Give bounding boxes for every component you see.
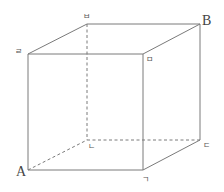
vertex-label-front-bottom-right: ㄱ xyxy=(142,176,149,184)
vertex-label-back-top-left: ㅂ xyxy=(83,13,90,21)
vertex-label-b: B xyxy=(202,14,211,28)
vertex-label-back-bottom-right: ㄷ xyxy=(203,142,210,150)
vertex-label-front-top-left: ㄹ xyxy=(15,48,22,56)
cube-diagram xyxy=(0,0,224,192)
edge-top-right-depth xyxy=(143,24,200,54)
vertex-label-back-bottom-left: ㄴ xyxy=(88,143,95,151)
edge-bottom-right-depth xyxy=(143,140,200,170)
edge-top-left-depth xyxy=(28,24,87,54)
vertex-label-front-top-right: ㅁ xyxy=(146,56,153,64)
hidden-edge-bottom-left-depth xyxy=(28,140,87,170)
vertex-label-a: A xyxy=(16,165,26,179)
